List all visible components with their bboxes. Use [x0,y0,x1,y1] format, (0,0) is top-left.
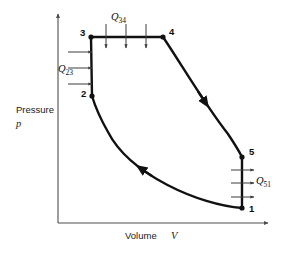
heat-label-q34: Q34 [111,11,126,25]
process-paths-group [91,37,242,208]
flow-arrow-4-5 [198,92,206,104]
process-path-1-2 [92,96,242,208]
flow-direction-arrows-group [140,92,205,177]
heat-subscript-q51: 51 [264,180,272,189]
heat-subscript-q23: 23 [66,68,74,77]
process-path-2-3 [91,37,92,96]
pv-diagram-canvas: Pressure p Volume V 12345 Q23Q34Q51 [0,0,292,253]
state-point-3 [88,34,93,39]
heat-label-q23: Q23 [58,63,73,77]
state-point-5 [239,154,244,159]
x-axis-label-text: Volume [125,230,157,241]
x-axis-label-symbol: V [171,230,179,241]
state-label-1: 1 [249,203,255,214]
heat-flux-arrows-group [68,24,254,197]
state-point-2 [89,93,94,98]
flow-arrow-1-2 [140,168,152,176]
state-label-4: 4 [169,26,175,37]
heat-subscript-q34: 34 [119,16,127,25]
axes-group [58,14,268,223]
y-axis-label-text: Pressure [16,104,54,115]
heat-label-q51: Q51 [256,175,271,189]
state-point-4 [160,34,165,39]
y-axis-label-symbol: p [15,118,21,129]
pv-diagram-figure: Pressure p Volume V 12345 Q23Q34Q51 [0,0,292,253]
state-label-3: 3 [80,27,85,38]
state-label-2: 2 [81,88,86,99]
state-point-1 [239,205,244,210]
state-label-5: 5 [249,146,255,157]
